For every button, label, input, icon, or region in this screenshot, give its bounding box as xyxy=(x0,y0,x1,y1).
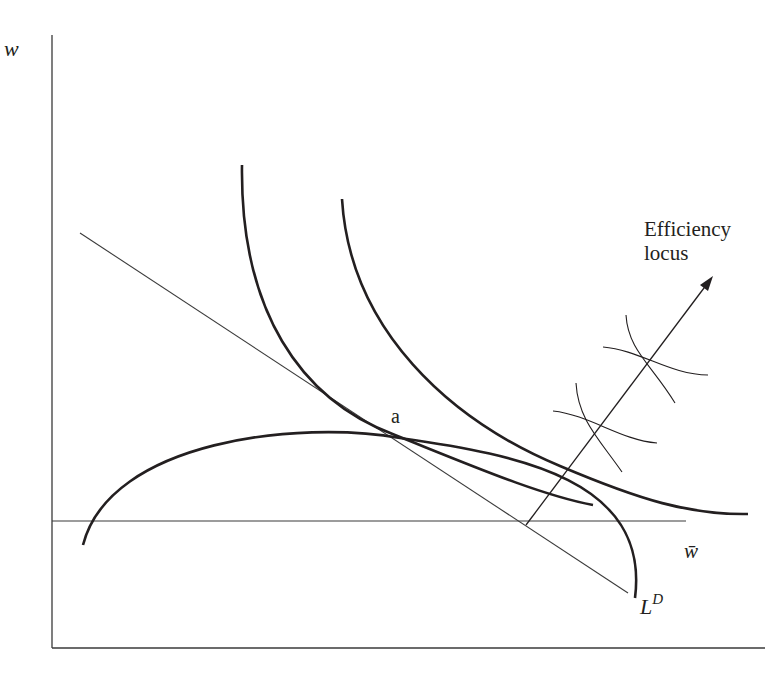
labor-demand-label-sup: D xyxy=(651,591,663,607)
arrowhead-icon xyxy=(700,276,713,291)
labor-demand-label: LD xyxy=(639,591,663,619)
indifference-curve-inner xyxy=(242,165,593,505)
iso-profit-curve xyxy=(83,432,636,598)
w-bar-label: w̄ xyxy=(684,539,698,563)
cross-curve-1b xyxy=(553,411,657,443)
y-axis-label: w xyxy=(4,36,19,61)
efficiency-locus-label-line2: locus xyxy=(644,241,688,265)
efficiency-locus-label-line1: Efficiency xyxy=(644,217,732,241)
labor-demand-line xyxy=(80,233,628,593)
efficiency-locus-diagram: w a Efficiency locus w̄ LD xyxy=(0,0,784,675)
labor-demand-label-base: L xyxy=(639,594,652,619)
point-a-label: a xyxy=(391,405,400,427)
cross-curve-2b xyxy=(603,347,708,375)
